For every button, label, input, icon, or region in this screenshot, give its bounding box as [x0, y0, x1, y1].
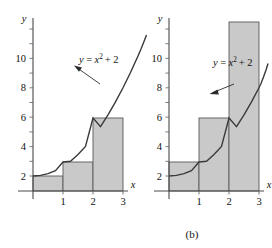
left-panel-ytick-8: 8	[21, 82, 26, 93]
left-panel-ytick-2: 2	[21, 171, 26, 182]
left-panel-x-axis-label: x	[130, 179, 136, 190]
left-panel-ytick-10: 10	[16, 53, 27, 64]
right-panel-ytick-6: 6	[157, 112, 162, 123]
left-panel-ytick-4: 4	[21, 141, 27, 152]
left-panel: 2 4 6 8 10 1 2 3 y x y=x2+2	[16, 13, 147, 207]
left-panel-annotation-arrow	[74, 66, 100, 85]
figure-caption: (b)	[186, 228, 199, 241]
bar-left-1-2	[63, 162, 93, 191]
right-panel-curve-label-equals: =	[220, 57, 226, 68]
left-panel-curve-label-plus: +	[105, 54, 111, 65]
figure-container: 2 4 6 8 10 1 2 3 y x y=x2+2	[0, 0, 272, 248]
bar-left-0-1	[33, 176, 63, 191]
left-panel-xtick-3: 3	[120, 196, 125, 207]
right-panel-xtick-2: 2	[226, 196, 231, 207]
left-panel-curve-label: y=x2+2	[78, 53, 119, 65]
right-panel-xtick-1: 1	[196, 196, 201, 207]
left-panel-curve-label-constant: 2	[113, 54, 118, 65]
left-panel-curve-label-lhs: y	[78, 54, 84, 65]
left-panel-ytick-6: 6	[21, 112, 26, 123]
right-panel-curve-label-exponent: 2	[233, 56, 237, 64]
bar-left-2-3	[93, 118, 123, 191]
right-panel-curve-label: y=x2+2	[212, 56, 253, 68]
left-panel-y-axis-label: y	[21, 13, 27, 24]
bar-right-2-3	[229, 22, 259, 191]
left-panel-curve-label-equals: =	[86, 54, 92, 65]
right-panel-curve-label-plus: +	[239, 57, 245, 68]
right-panel-ytick-10: 10	[152, 53, 163, 64]
right-panel-bars	[169, 22, 259, 191]
right-panel-curve-label-constant: 2	[247, 57, 252, 68]
right-panel: 2 4 6 8 10 1 2 3 y x y=x2+2	[152, 13, 272, 207]
left-panel-xtick-1: 1	[60, 196, 65, 207]
right-panel-y-axis-label: y	[157, 13, 163, 24]
riemann-sum-figure: 2 4 6 8 10 1 2 3 y x y=x2+2	[0, 0, 272, 248]
right-panel-ytick-4: 4	[157, 141, 163, 152]
right-panel-curve-label-lhs: y	[212, 57, 218, 68]
right-panel-ytick-8: 8	[157, 82, 162, 93]
right-panel-ytick-2: 2	[157, 171, 162, 182]
right-panel-xtick-3: 3	[256, 196, 261, 207]
left-panel-curve-label-exponent: 2	[99, 53, 103, 61]
left-panel-xtick-2: 2	[90, 196, 95, 207]
right-panel-x-axis-label: x	[266, 179, 272, 190]
